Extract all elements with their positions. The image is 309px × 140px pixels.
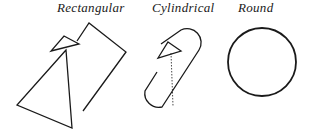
small-triangle-icon [51,36,79,51]
cylindrical-shape [145,29,201,108]
round-shape [228,28,296,96]
shapes-canvas [0,0,309,140]
large-triangle-shape [17,50,72,128]
dotted-line [171,53,173,106]
rectangle-outline [77,23,126,111]
rectangular-shape [17,23,126,128]
circle-outline [228,28,296,96]
